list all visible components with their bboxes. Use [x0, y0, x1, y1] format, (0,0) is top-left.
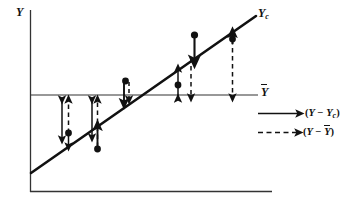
- data-point-5: [191, 31, 198, 38]
- data-point-4: [175, 82, 182, 89]
- regression-line-label: Yc: [258, 6, 269, 21]
- legend-2-term2-glyph: Y: [324, 126, 330, 137]
- deviation-pair-1: [62, 99, 72, 147]
- y-axis-label: Y: [16, 5, 23, 20]
- data-point-2: [94, 146, 101, 153]
- mean-line-label-text: Y: [261, 85, 268, 99]
- legend-1-close-paren: ): [336, 107, 340, 118]
- legend-1-minus: −: [315, 107, 326, 118]
- deviation-pair-3: [122, 78, 129, 104]
- legend-2-term2-base: Y: [324, 126, 330, 137]
- axes-group: [30, 10, 272, 192]
- data-point-3: [122, 78, 129, 85]
- legend-2-minus: −: [313, 126, 324, 137]
- legend-item-total-deviation: (Y − Y): [303, 126, 334, 137]
- regression-line-label-subscript: c: [265, 12, 269, 21]
- overbar-mark: [261, 84, 267, 85]
- regression-deviation-figure: Y Yc Y (Y − Yc) (Y − Y): [0, 0, 364, 206]
- mean-line-label: Y: [261, 85, 268, 100]
- deviation-pair-6: [229, 32, 236, 98]
- plot-canvas: [0, 0, 364, 206]
- mean-line-label-glyph: Y: [261, 85, 268, 100]
- legend-2-close-paren: ): [331, 126, 335, 137]
- data-point-1: [65, 130, 72, 137]
- data-point-6: [229, 36, 236, 43]
- legend-2-overbar-mark: [324, 125, 329, 126]
- legend-marks-group: [258, 114, 300, 133]
- legend-item-residual: (Y − Yc): [305, 107, 340, 120]
